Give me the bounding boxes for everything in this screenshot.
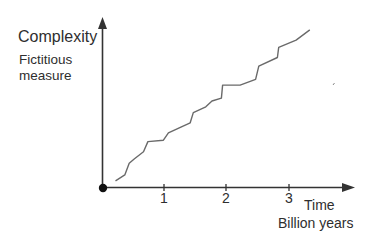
y-axis-arrowhead: [98, 17, 107, 29]
y-axis-sublabel: Fictitious measure: [19, 52, 72, 84]
x-tick-label-1: 1: [160, 190, 168, 206]
y-axis-sublabel-line1: Fictitious: [19, 52, 72, 68]
y-axis-sublabel-line2: measure: [19, 68, 72, 84]
x-axis-label: Time: [304, 197, 335, 213]
origin-dot: [99, 184, 107, 192]
complexity-curve: [116, 30, 310, 181]
stray-mark: [333, 83, 335, 85]
x-axis-sublabel: Billion years: [278, 215, 353, 231]
x-axis-arrowhead: [342, 183, 355, 192]
y-axis-label: Complexity: [18, 28, 97, 46]
x-tick-label-3: 3: [285, 190, 293, 206]
x-tick-label-2: 2: [222, 190, 230, 206]
